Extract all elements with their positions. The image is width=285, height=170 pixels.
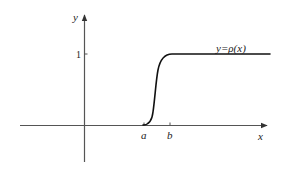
x-tick-label-a: a (141, 129, 147, 141)
step-curve (143, 54, 270, 125)
x-axis-label: x (257, 130, 263, 142)
x-tick-label-b: b (167, 129, 173, 141)
y-tick-label-1: 1 (76, 49, 81, 60)
step-function-diagram: y 1 y=ρ(x) a b x (0, 0, 285, 170)
curve-label: y=ρ(x) (215, 42, 246, 55)
y-axis-label: y (72, 11, 78, 23)
